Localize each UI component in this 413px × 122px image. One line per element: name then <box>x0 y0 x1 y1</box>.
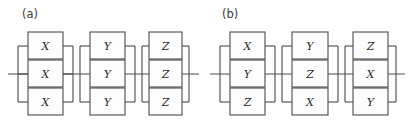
panel-a: (a) X X X <box>8 7 199 115</box>
gate-label: X <box>366 68 376 81</box>
gate-label: X <box>41 40 51 53</box>
gate-label: X <box>305 96 315 109</box>
panel-a-block-1: X X X <box>18 32 73 115</box>
panel-b: (b) X Y Z <box>210 7 405 115</box>
gate-label: Z <box>366 40 375 53</box>
quantum-circuit-figure: (a) X X X <box>0 0 413 122</box>
panel-a-block-3: Z Z Z <box>142 32 189 115</box>
gate-label: X <box>41 96 51 109</box>
gate-label: Z <box>161 40 170 53</box>
gate-label: X <box>243 40 253 53</box>
gate-label: Z <box>243 96 252 109</box>
panel-b-label: (b) <box>222 7 238 21</box>
gate-label: Z <box>305 68 314 81</box>
panel-a-label: (a) <box>22 7 38 21</box>
gate-label: Z <box>161 68 170 81</box>
gate-label: X <box>41 68 51 81</box>
gate-label: Z <box>161 96 170 109</box>
panel-b-block-3: Z X Y <box>345 32 396 115</box>
